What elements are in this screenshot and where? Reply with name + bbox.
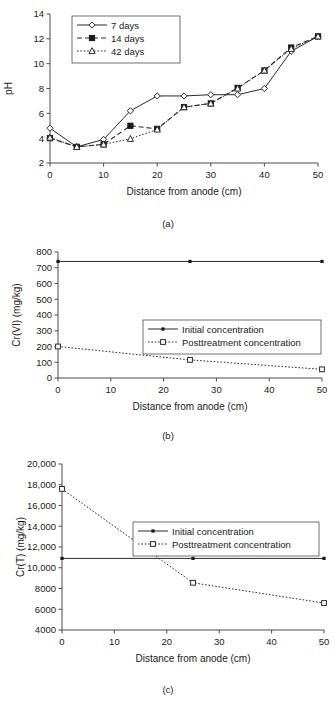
y-tick-label: 0	[47, 372, 52, 383]
data-point	[208, 92, 214, 98]
data-point	[188, 357, 193, 362]
y-tick-label: 100	[36, 357, 52, 368]
y-tick-label: 600	[36, 278, 52, 289]
chart-a-canvas: 246810121401020304050Distance from anode…	[0, 0, 336, 215]
data-point	[61, 557, 63, 559]
y-tick-label: 12	[33, 33, 44, 44]
legend-label-2: 14 days	[111, 33, 145, 44]
data-point	[181, 93, 187, 99]
y-axis-title: pH	[3, 82, 14, 95]
y-tick-label: 10	[33, 58, 44, 69]
data-point	[323, 557, 325, 559]
chart-panel-b: 010020030040050060070080001020304050Dist…	[0, 240, 336, 450]
data-point	[191, 580, 196, 585]
x-tick-label: 30	[211, 384, 222, 395]
y-tick-label: 300	[36, 325, 52, 336]
legend-label-2: Posttreatment concentration	[182, 337, 301, 348]
data-point	[128, 123, 133, 128]
panel-c-caption: (c)	[0, 684, 336, 695]
legend-marker	[161, 340, 166, 345]
y-tick-label: 18,000	[27, 479, 56, 490]
y-tick-label: 200	[36, 341, 52, 352]
y-tick-label: 8	[39, 83, 44, 94]
legend-label-3: 42 days	[111, 46, 145, 57]
y-tick-label: 500	[36, 294, 52, 305]
data-point	[235, 92, 241, 98]
y-tick-label: 700	[36, 262, 52, 273]
y-tick-label: 4	[39, 133, 44, 144]
data-point	[57, 260, 59, 262]
x-tick-label: 10	[109, 636, 120, 647]
data-point	[321, 260, 323, 262]
x-tick-label: 40	[266, 636, 277, 647]
legend-marker	[162, 328, 164, 330]
legend-marker	[151, 542, 156, 547]
x-tick-label: 0	[55, 384, 60, 395]
legend-marker	[89, 35, 94, 40]
y-tick-label: 12,000	[27, 541, 56, 552]
y-tick-label: 6	[39, 108, 44, 119]
x-tick-label: 20	[162, 636, 173, 647]
y-tick-label: 2	[39, 157, 44, 168]
data-point	[56, 344, 61, 349]
y-tick-label: 14	[33, 8, 44, 19]
x-tick-label: 10	[98, 169, 109, 180]
x-tick-label: 0	[47, 169, 52, 180]
y-tick-label: 6000	[35, 604, 56, 615]
x-axis-title: Distance from anode (cm)	[126, 186, 241, 197]
legend-marker	[152, 530, 154, 532]
x-tick-label: 50	[319, 636, 330, 647]
data-point	[154, 93, 160, 99]
chart-b-canvas: 010020030040050060070080001020304050Dist…	[0, 240, 336, 428]
y-tick-label: 10,000	[27, 562, 56, 573]
y-axis-title: Cr(VI) (mg/kg)	[11, 283, 22, 346]
x-axis-title: Distance from anode (cm)	[132, 401, 247, 412]
panel-a-caption: (a)	[0, 218, 336, 229]
chart-panel-a: 246810121401020304050Distance from anode…	[0, 0, 336, 240]
data-point	[189, 260, 191, 262]
y-tick-label: 400	[36, 309, 52, 320]
x-tick-label: 20	[158, 384, 169, 395]
figure-container: 246810121401020304050Distance from anode…	[0, 0, 336, 715]
data-point	[192, 557, 194, 559]
x-tick-label: 50	[317, 384, 328, 395]
legend-label-2: Posttreatment concentration	[172, 539, 291, 550]
x-tick-label: 30	[214, 636, 225, 647]
x-tick-label: 20	[152, 169, 163, 180]
y-tick-label: 16,000	[27, 500, 56, 511]
y-axis-title: Cr(T) (mg/kg)	[15, 517, 26, 577]
legend-label-1: Initial concentration	[172, 526, 254, 537]
y-tick-label: 800	[36, 246, 52, 257]
x-tick-label: 50	[313, 169, 324, 180]
y-tick-label: 4000	[35, 624, 56, 635]
y-tick-label: 8000	[35, 583, 56, 594]
y-tick-label: 14,000	[27, 521, 56, 532]
y-tick-label: 20,000	[27, 458, 56, 469]
panel-b-caption: (b)	[0, 430, 336, 441]
data-point	[60, 487, 65, 492]
data-point	[320, 367, 325, 372]
x-tick-label: 40	[264, 384, 275, 395]
legend-label-1: Initial concentration	[182, 324, 264, 335]
x-tick-label: 0	[59, 636, 64, 647]
data-point	[322, 601, 327, 606]
x-tick-label: 30	[206, 169, 217, 180]
chart-c-canvas: 40006000800010,00012,00014,00016,00018,0…	[0, 450, 336, 682]
x-tick-label: 10	[106, 384, 117, 395]
data-point	[127, 135, 133, 141]
data-point	[47, 125, 53, 131]
x-axis-title: Distance from anode (cm)	[135, 653, 250, 664]
chart-panel-c: 40006000800010,00012,00014,00016,00018,0…	[0, 450, 336, 705]
legend-label-1: 7 days	[111, 20, 139, 31]
x-tick-label: 40	[259, 169, 270, 180]
